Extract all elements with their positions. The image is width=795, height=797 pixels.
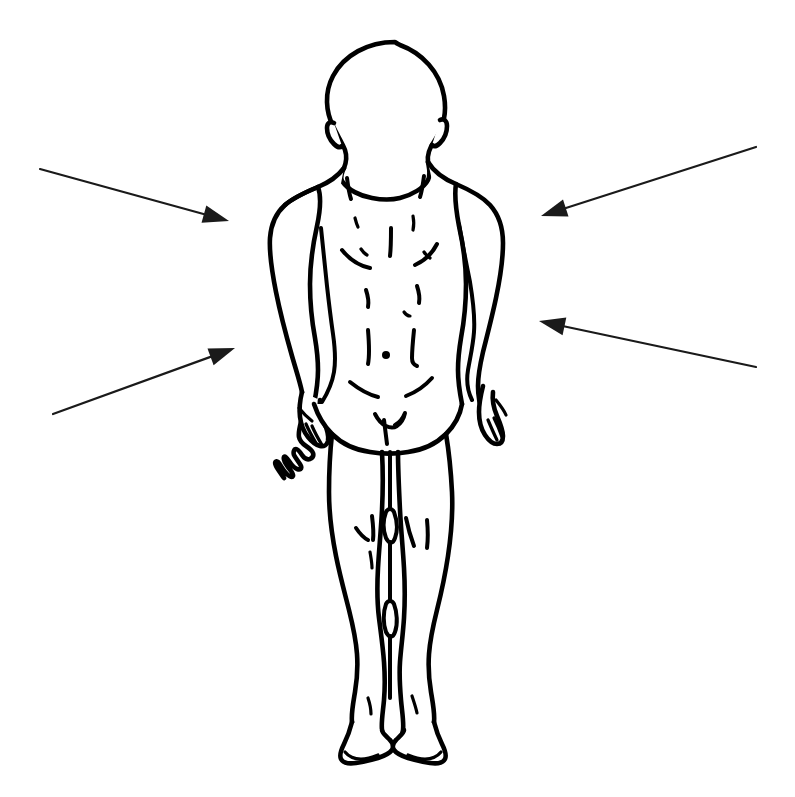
knee-detail-left-inner [372,516,373,540]
chest-mark-right [413,216,414,230]
oblique-left-line [368,330,369,364]
anatomy-figure-canvas [0,0,795,797]
abdomen-mark-right [417,286,419,303]
anatomy-figure-container: Anterior view of standing human male fig… [0,0,795,797]
body-silhouette-outline [327,42,445,200]
abdomen-mark-left [366,290,368,307]
navel [382,351,390,359]
sternum-line [390,228,391,256]
knee-detail-right-outer [427,520,428,548]
